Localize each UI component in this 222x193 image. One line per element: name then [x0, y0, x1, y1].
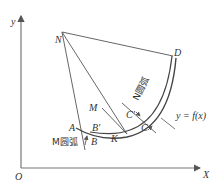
point-B-prime: B′ [92, 122, 101, 133]
point-K: K [110, 133, 119, 144]
curve-fx [76, 58, 176, 138]
arrow-B [85, 136, 87, 145]
diagram-canvas: y X O N D M A B′ B K C′ C y = f(x) M圆弧 N… [0, 0, 222, 193]
point-C-prime: C′ [126, 109, 136, 120]
y-axis-label: y [10, 16, 16, 27]
diagram-svg: y X O N D M A B′ B K C′ C y = f(x) M圆弧 N… [0, 0, 222, 193]
line-M-K [102, 108, 127, 134]
point-C: C [141, 122, 148, 133]
m-arc-label: M圆弧 [52, 136, 78, 147]
point-B: B [91, 136, 97, 147]
line-N-D [62, 32, 173, 56]
x-axis-label: X [202, 169, 210, 180]
point-N: N [54, 34, 63, 45]
point-M: M [88, 102, 98, 113]
leader-fx [161, 118, 175, 129]
origin-label: O [15, 171, 22, 182]
n-arc-label: N圆弧 [130, 75, 151, 102]
curve-label: y = f(x) [175, 110, 207, 122]
point-A: A [68, 122, 76, 133]
point-D: D [173, 47, 182, 58]
